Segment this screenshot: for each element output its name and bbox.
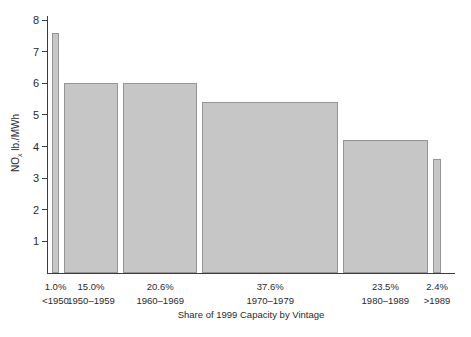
- y-tick-label: 3: [18, 172, 39, 184]
- category-share-label: 2.4%: [424, 280, 451, 294]
- y-tick: [42, 83, 47, 84]
- y-tick-label: 6: [18, 77, 39, 89]
- y-tick: [42, 146, 47, 147]
- y-axis-title-suffix: lb./MWh: [10, 114, 21, 153]
- y-tick-label: 7: [18, 46, 39, 58]
- category-vintage-label: >1989: [424, 294, 451, 308]
- y-axis-title-subscript: x: [16, 153, 23, 157]
- y-tick: [42, 20, 47, 21]
- y-axis-title-prefix: NO: [10, 157, 21, 172]
- y-axis-title: NOx lb./MWh: [10, 114, 23, 172]
- category-share-label: 20.6%: [136, 280, 184, 294]
- bar: [123, 83, 197, 273]
- plot-area: 123456781.0%<195015.0%1950–195920.6%1960…: [0, 0, 471, 337]
- y-tick: [42, 114, 47, 115]
- nox-by-vintage-figure: 123456781.0%<195015.0%1950–195920.6%1960…: [0, 0, 471, 337]
- y-tick-label: 2: [18, 204, 39, 216]
- bar: [202, 102, 338, 273]
- bar: [64, 83, 118, 273]
- y-tick-label: 1: [18, 235, 39, 247]
- x-category-label: 20.6%1960–1969: [136, 280, 184, 307]
- y-tick: [42, 178, 47, 179]
- x-category-label: 2.4%>1989: [424, 280, 451, 307]
- y-tick: [42, 209, 47, 210]
- category-share-label: 1.0%: [42, 280, 69, 294]
- y-tick-label: 8: [18, 14, 39, 26]
- category-share-label: 15.0%: [67, 280, 115, 294]
- x-category-label: 15.0%1950–1959: [67, 280, 115, 307]
- category-vintage-label: 1970–1979: [246, 294, 294, 308]
- bar: [52, 33, 59, 273]
- bar: [343, 140, 428, 273]
- bar: [433, 159, 442, 273]
- category-vintage-label: 1980–1989: [362, 294, 410, 308]
- x-axis-title: Share of 1999 Capacity by Vintage: [47, 309, 455, 320]
- category-vintage-label: <1950: [42, 294, 69, 308]
- x-category-label: 23.5%1980–1989: [362, 280, 410, 307]
- category-vintage-label: 1950–1959: [67, 294, 115, 308]
- category-share-label: 23.5%: [362, 280, 410, 294]
- y-axis: [47, 16, 48, 273]
- x-category-label: 1.0%<1950: [42, 280, 69, 307]
- category-vintage-label: 1960–1969: [136, 294, 184, 308]
- y-tick: [42, 241, 47, 242]
- x-category-label: 37.6%1970–1979: [246, 280, 294, 307]
- category-share-label: 37.6%: [246, 280, 294, 294]
- x-axis: [47, 273, 455, 274]
- y-tick: [42, 51, 47, 52]
